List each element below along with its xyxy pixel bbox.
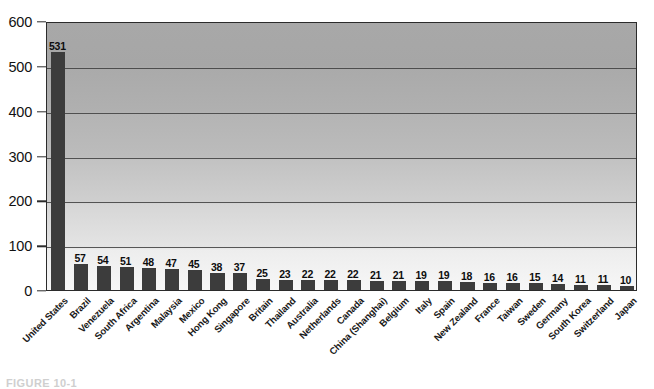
y-axis-tick-mark <box>37 290 46 291</box>
bar <box>97 266 111 290</box>
bar <box>233 273 247 290</box>
bar-value-label: 38 <box>211 261 222 273</box>
bar-value-label: 57 <box>75 252 86 264</box>
bar <box>370 281 384 290</box>
bar <box>415 281 429 290</box>
y-axis-tick-mark <box>37 156 46 157</box>
bar-value-label: 47 <box>165 257 176 269</box>
bar <box>460 282 474 290</box>
bar <box>551 284 565 290</box>
x-axis-label: Japan <box>612 295 639 322</box>
bar-value-label: 51 <box>120 255 131 267</box>
bar-value-label: 16 <box>506 271 517 283</box>
bar <box>438 281 452 290</box>
bar <box>620 286 634 290</box>
plot-area <box>46 22 637 291</box>
y-axis-tick-label: 400 <box>8 104 32 120</box>
bar <box>392 281 406 290</box>
bar-value-label: 15 <box>529 271 540 283</box>
y-axis-tick-mark <box>37 245 46 246</box>
bar <box>324 280 338 290</box>
bar-value-label: 531 <box>49 40 66 52</box>
y-axis-tick-label: 600 <box>8 14 32 30</box>
bar <box>483 283 497 290</box>
gridline <box>47 113 636 114</box>
gridline <box>47 68 636 69</box>
bar <box>256 279 270 290</box>
bar <box>165 269 179 290</box>
bar-value-label: 54 <box>97 254 108 266</box>
bar-value-label: 10 <box>620 274 631 286</box>
bar <box>142 268 156 290</box>
bar-value-label: 25 <box>256 267 267 279</box>
y-axis-tick-label: 500 <box>8 59 32 75</box>
bar-value-label: 11 <box>575 273 586 285</box>
bar-value-label: 45 <box>188 258 199 270</box>
bar <box>210 273 224 290</box>
bar <box>529 283 543 290</box>
bar-value-label: 19 <box>438 269 449 281</box>
bar-value-label: 22 <box>347 268 358 280</box>
y-axis-tick-label: 0 <box>24 283 32 299</box>
y-axis-tick-mark <box>37 21 46 22</box>
bar <box>279 280 293 290</box>
gridline <box>47 158 636 159</box>
bar <box>347 280 361 290</box>
figure-caption: FIGURE 10-1 <box>6 377 77 389</box>
bar-value-label: 37 <box>234 261 245 273</box>
y-axis-tick-label: 200 <box>8 193 32 209</box>
bar-value-label: 16 <box>484 271 495 283</box>
bar-value-label: 48 <box>143 256 154 268</box>
gridline <box>47 202 636 203</box>
bar-value-label: 21 <box>393 269 404 281</box>
gridline <box>47 247 636 248</box>
bar-value-label: 14 <box>552 272 563 284</box>
bar-value-label: 21 <box>370 269 381 281</box>
y-axis-tick-label: 100 <box>8 238 32 254</box>
bar-value-label: 23 <box>279 268 290 280</box>
x-axis-label: United States <box>20 295 70 345</box>
bar <box>188 270 202 290</box>
bar <box>51 52 65 290</box>
bar <box>506 283 520 290</box>
bar-value-label: 22 <box>302 268 313 280</box>
y-axis-tick-mark <box>37 66 46 67</box>
y-axis-tick-mark <box>37 111 46 112</box>
bar-value-label: 22 <box>325 268 336 280</box>
y-axis-tick-label: 300 <box>8 149 32 165</box>
bar <box>120 267 134 290</box>
bar <box>597 285 611 290</box>
bar <box>301 280 315 290</box>
bar <box>574 285 588 290</box>
bar-value-label: 18 <box>461 270 472 282</box>
chart-figure: 0100200300400500600 53157545148474538372… <box>0 0 654 389</box>
y-axis-tick-mark <box>37 201 46 202</box>
bar-value-label: 19 <box>416 269 427 281</box>
bar <box>74 264 88 290</box>
bar-value-label: 11 <box>598 273 609 285</box>
